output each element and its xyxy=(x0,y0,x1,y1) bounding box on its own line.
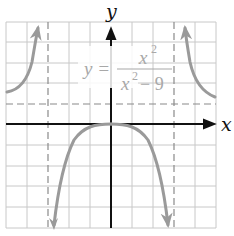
curve-branch-middle-right xyxy=(111,124,168,225)
svg-text:2: 2 xyxy=(132,69,138,83)
equation-label: y = x 2 x 2 − 9 xyxy=(78,42,172,94)
graph: y x y = x 2 x 2 − 9 xyxy=(0,0,234,236)
svg-text:− 9: − 9 xyxy=(140,74,164,94)
x-axis-label: x xyxy=(221,113,232,135)
svg-text:y =: y = xyxy=(82,58,110,79)
svg-text:x: x xyxy=(120,73,130,94)
curve-branch-left xyxy=(7,28,38,92)
svg-text:2: 2 xyxy=(151,42,157,56)
svg-text:x: x xyxy=(138,47,148,68)
y-axis-label: y xyxy=(105,0,117,22)
curve-branch-middle xyxy=(54,124,111,225)
